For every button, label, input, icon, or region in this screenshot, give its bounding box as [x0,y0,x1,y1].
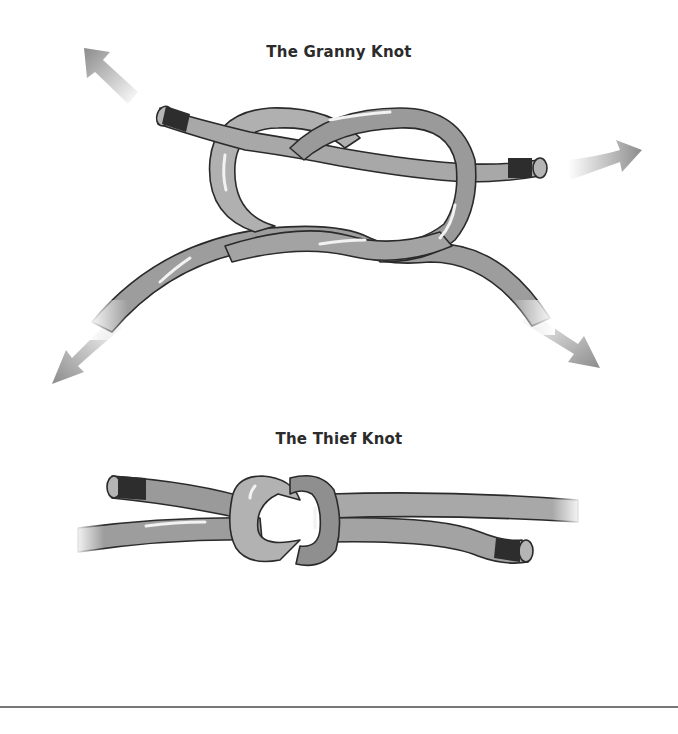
arrow-up-left-icon [84,48,138,104]
right-rope-end [519,540,533,562]
left-whipping [118,476,146,500]
granny-knot-diagram [92,104,550,332]
knot-illustrations [0,0,678,734]
arrow-right-icon [568,140,642,180]
bottom-divider [0,706,678,708]
right-rope-end [533,158,547,178]
right-whipping [508,158,532,178]
thief-knot-diagram [78,476,578,566]
fade-overlay [552,492,582,526]
right-whipping [494,538,520,562]
fade-overlay [74,510,104,558]
fade-overlay [88,300,128,340]
fade-overlay [510,300,555,335]
left-whipping [162,106,190,132]
